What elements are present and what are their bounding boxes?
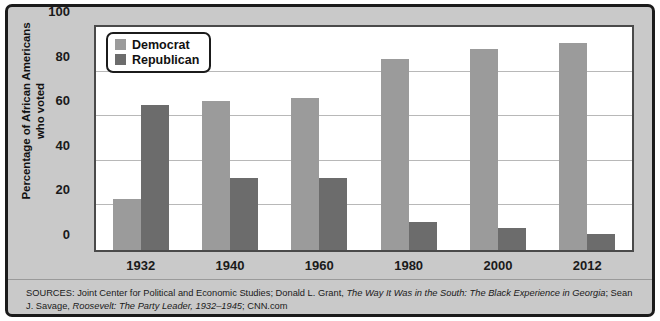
chart-legend: Democrat Republican — [106, 32, 211, 73]
chart-figure: Percentage of African Americans who vote… — [5, 4, 655, 317]
bar-group-2012: 2012 — [546, 27, 628, 250]
legend-swatch-democrat-icon — [115, 39, 126, 50]
sources-title-2: Roosevelt: The Party Leader, 1932–1945 — [73, 301, 243, 311]
x-tick-label-1980: 1980 — [368, 258, 450, 273]
y-tick-label-100: 100 — [30, 4, 70, 19]
bar-group-1960: 1960 — [278, 27, 360, 250]
bar-republican-1980[interactable] — [409, 222, 437, 250]
x-tick-label-1940: 1940 — [189, 258, 271, 273]
bar-democrat-2000[interactable] — [470, 49, 498, 250]
x-tick-label-1932: 1932 — [100, 258, 182, 273]
y-tick-label-40: 40 — [30, 138, 70, 153]
sources-divider — [8, 279, 652, 280]
legend-label-republican: Republican — [132, 53, 199, 67]
sources-prefix: SOURCES: — [26, 288, 75, 298]
legend-swatch-republican-icon — [115, 54, 126, 65]
y-tick-label-80: 80 — [30, 49, 70, 64]
bar-group-1980: 1980 — [368, 27, 450, 250]
bar-republican-2012[interactable] — [587, 234, 615, 250]
bar-democrat-1960[interactable] — [291, 98, 319, 250]
sources-text-1: Joint Center for Political and Economic … — [75, 288, 347, 298]
legend-item-republican[interactable]: Republican — [115, 52, 199, 67]
bar-republican-2000[interactable] — [498, 228, 526, 250]
x-tick-label-1960: 1960 — [278, 258, 360, 273]
bar-democrat-2012[interactable] — [559, 43, 587, 250]
bar-republican-1932[interactable] — [141, 105, 169, 250]
bar-republican-1940[interactable] — [230, 178, 258, 250]
bar-democrat-1932[interactable] — [113, 199, 141, 250]
legend-label-democrat: Democrat — [132, 38, 190, 52]
chart-area: Percentage of African Americans who vote… — [8, 7, 652, 275]
sources-title-1: The Way It Was in the South: The Black E… — [346, 288, 605, 298]
y-tick-label-60: 60 — [30, 93, 70, 108]
bar-democrat-1940[interactable] — [202, 101, 230, 250]
y-tick-label-20: 20 — [30, 182, 70, 197]
sources-note: SOURCES: Joint Center for Political and … — [26, 287, 638, 312]
x-tick-label-2012: 2012 — [546, 258, 628, 273]
sources-text-3: ; CNN.com — [242, 301, 287, 311]
legend-item-democrat[interactable]: Democrat — [115, 37, 199, 52]
x-tick-label-2000: 2000 — [457, 258, 539, 273]
bar-republican-1960[interactable] — [319, 178, 347, 250]
y-tick-label-0: 0 — [30, 227, 70, 242]
bar-group-2000: 2000 — [457, 27, 539, 250]
bar-democrat-1980[interactable] — [381, 59, 409, 250]
